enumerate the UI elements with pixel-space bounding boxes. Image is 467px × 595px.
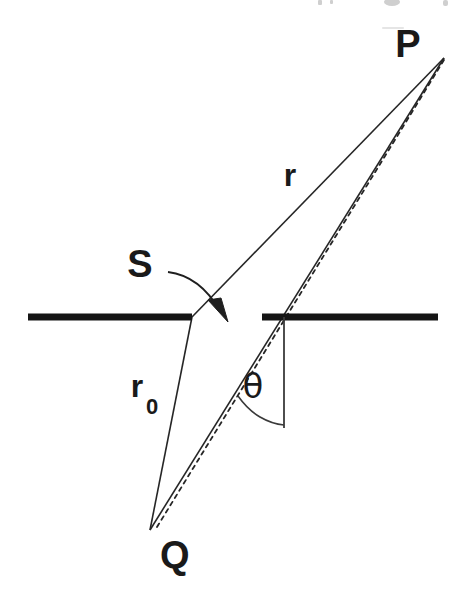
label-point-p: P xyxy=(395,23,420,65)
label-point-q: Q xyxy=(160,534,190,576)
diffraction-diagram-figure: P Q S r r 0 θ xyxy=(0,0,467,595)
label-angle-theta: θ xyxy=(243,366,264,406)
label-distance-r: r xyxy=(284,157,296,193)
ray-q-to-p-solid xyxy=(150,58,444,530)
s-pointer-arrowhead xyxy=(208,298,228,322)
ray-q-to-p-dashed xyxy=(157,60,444,527)
ray-slit-left-to-p xyxy=(192,58,444,317)
cropped-text-remnants xyxy=(318,0,448,29)
diagram-canvas: P Q S r r 0 θ xyxy=(0,0,467,595)
label-distance-r0-subscript: 0 xyxy=(146,394,158,419)
ray-r0-q-to-slit-left xyxy=(150,317,192,530)
label-distance-r0-base: r xyxy=(131,368,143,404)
label-slit-s: S xyxy=(127,243,152,285)
